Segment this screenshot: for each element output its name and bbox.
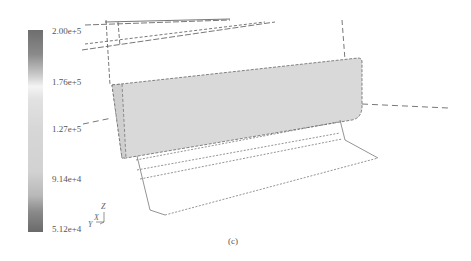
axis-z-label: Z — [101, 202, 105, 211]
figure-caption: (c) — [228, 236, 238, 246]
axis-x-label: X — [94, 213, 99, 222]
surface-panel — [112, 58, 362, 158]
cfd-geometry-view — [0, 0, 471, 261]
axis-y-label: Y — [88, 220, 92, 229]
